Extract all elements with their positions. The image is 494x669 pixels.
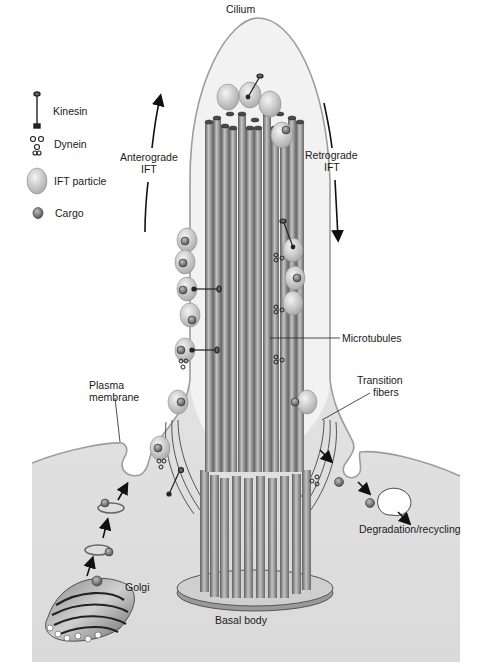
label-microtubules: Microtubules [342,332,402,344]
ift-particle-icon [27,168,47,194]
legend-label-kinesin: Kinesin [53,105,88,117]
cargo-icon [33,208,43,219]
kinesin-icon [34,92,40,128]
label-retrograde-ift: IFT [324,161,340,173]
legend [27,92,47,219]
legend-label-ift-particle: IFT particle [54,175,106,187]
legend-label-cargo: Cargo [55,207,84,219]
dynein-icon [31,137,44,156]
label-membrane: membrane [89,391,139,403]
anterograde-arrow-lower [145,182,148,232]
label-degradation: Degradation/recycling [359,523,461,535]
label-golgi: Golgi [125,581,150,593]
cilium-diagram: Kinesin Dynein IFT particle Cargo Cilium… [0,0,494,669]
label-anterograde-ift: IFT [141,163,157,175]
label-plasma: Plasma [89,379,124,391]
label-retrograde: Retrograde [305,149,358,161]
label-basal-body: Basal body [215,614,268,626]
retrograde-arrow-lower [335,180,338,238]
label-anterograde: Anterograde [120,151,178,163]
label-transition: Transition [357,374,403,386]
legend-label-dynein: Dynein [54,138,87,150]
anterograde-arrow-upper [152,98,160,148]
label-cilium: Cilium [226,3,255,15]
label-fibers: fibers [373,386,399,398]
